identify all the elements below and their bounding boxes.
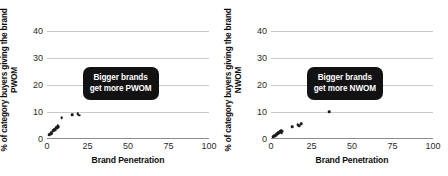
y-axis-tick-label: 30: [33, 53, 43, 63]
callout-line-2: get more PWOM: [90, 83, 152, 94]
panel-pwom: % of category buyers giving the brand PW…: [0, 0, 224, 176]
data-point: [60, 117, 63, 120]
data-point: [71, 113, 74, 116]
y-axis-tick-label: 20: [257, 80, 267, 90]
data-point: [328, 111, 331, 114]
dual-scatter-figure: % of category buyers giving the brand PW…: [0, 0, 448, 176]
x-axis-tick-label: 50: [123, 141, 133, 151]
x-axis-line: [271, 138, 433, 139]
y-axis-tick-label: 10: [257, 107, 267, 117]
y-axis-title-nwom: % of category buyers giving the brand NW…: [224, 5, 244, 155]
y-axis-tick-label: 0: [38, 134, 43, 144]
gridline: [47, 58, 209, 59]
x-axis-tick-label: 25: [306, 141, 316, 151]
y-axis-title-pwom: % of category buyers giving the brand PW…: [0, 5, 20, 155]
y-axis-tick-label: 40: [257, 26, 267, 36]
data-point: [78, 114, 81, 117]
data-point: [291, 125, 294, 128]
y-axis-tick-label: 40: [33, 26, 43, 36]
gridline: [271, 31, 433, 32]
y-axis-tick-label: 0: [262, 134, 267, 144]
x-axis-tick-label: 0: [268, 141, 273, 151]
gridline: [47, 31, 209, 32]
annotation-callout-nwom: Bigger brands get more NWOM: [307, 67, 383, 100]
data-point: [281, 130, 284, 133]
x-axis-tick-label: 100: [201, 141, 216, 151]
annotation-callout-pwom: Bigger brands get more PWOM: [83, 67, 159, 100]
x-axis-tick-label: 50: [347, 141, 357, 151]
x-axis-title-nwom: Brand Penetration: [271, 155, 433, 165]
gridline: [271, 58, 433, 59]
callout-line-1: Bigger brands: [318, 73, 372, 82]
x-axis-tick-label: 75: [387, 141, 397, 151]
y-axis-tick-label: 20: [33, 80, 43, 90]
x-axis-title-pwom: Brand Penetration: [47, 155, 209, 165]
x-axis-tick-label: 0: [44, 141, 49, 151]
y-axis-tick-label: 10: [33, 107, 43, 117]
data-point: [300, 123, 303, 126]
y-axis-tick-label: 30: [257, 53, 267, 63]
x-axis-line: [47, 138, 209, 139]
data-point: [57, 125, 60, 128]
x-axis-tick-label: 25: [82, 141, 92, 151]
x-axis-tick-label: 100: [425, 141, 440, 151]
callout-line-2: get more NWOM: [314, 83, 376, 94]
x-axis-tick-label: 75: [163, 141, 173, 151]
gridline: [271, 112, 433, 113]
panel-nwom: % of category buyers giving the brand NW…: [224, 0, 448, 176]
callout-line-1: Bigger brands: [93, 73, 147, 82]
